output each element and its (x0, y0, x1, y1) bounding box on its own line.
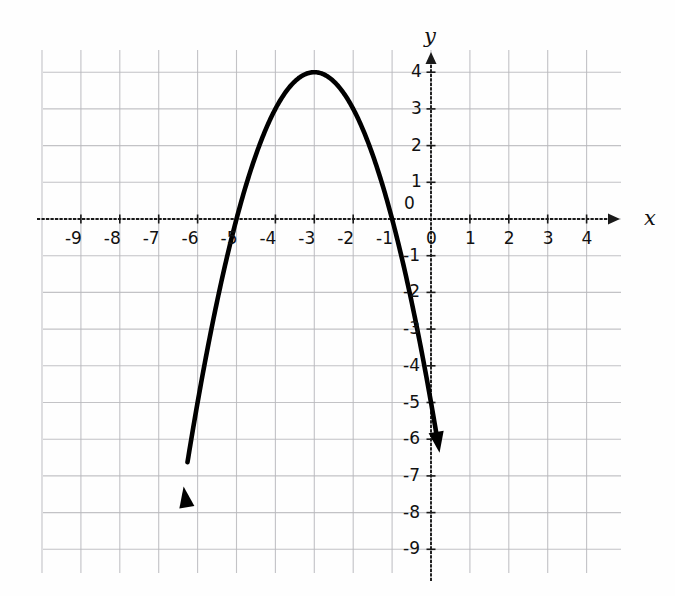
x-tick-label: 4 (582, 230, 593, 247)
graph-figure: -9-8-7-6-5-4-3-2-10123443210-1-2-3-4-5-6… (0, 0, 675, 596)
x-tick-label: -8 (104, 230, 121, 247)
y-tick-label: 3 (411, 100, 422, 117)
x-tick-label: -4 (259, 230, 276, 247)
y-tick-label: -6 (403, 430, 420, 447)
x-tick-label: -6 (182, 230, 199, 247)
y-tick-label: -1 (403, 247, 420, 264)
x-tick-label: -9 (65, 230, 82, 247)
coordinate-plane (0, 0, 675, 596)
y-tick-label: -9 (403, 540, 420, 557)
axes (37, 52, 620, 581)
y-tick-label: -4 (403, 357, 420, 374)
x-tick-label: 2 (504, 230, 515, 247)
y-tick-label: -2 (403, 283, 420, 300)
x-axis-label: x (644, 208, 656, 229)
grid-lines (42, 50, 621, 573)
axis-ticks (81, 72, 587, 549)
x-tick-label: 1 (465, 230, 476, 247)
y-tick-label: -8 (403, 504, 420, 521)
x-tick-label: -5 (221, 230, 238, 247)
x-tick-label: -2 (337, 230, 354, 247)
y-tick-label: 4 (411, 63, 422, 80)
y-tick-label: 1 (411, 173, 422, 190)
y-tick-label: -7 (403, 467, 420, 484)
x-tick-label: -3 (298, 230, 315, 247)
parabola-curve (187, 72, 438, 462)
x-tick-label: -7 (143, 230, 160, 247)
y-tick-label: 0 (404, 195, 415, 212)
y-tick-label: -5 (403, 394, 420, 411)
x-tick-label: 0 (426, 230, 437, 247)
y-tick-label: 2 (411, 137, 422, 154)
x-tick-label: -1 (376, 230, 393, 247)
x-tick-label: 3 (543, 230, 554, 247)
y-tick-label: -3 (403, 320, 420, 337)
y-axis-label: y (424, 26, 436, 47)
